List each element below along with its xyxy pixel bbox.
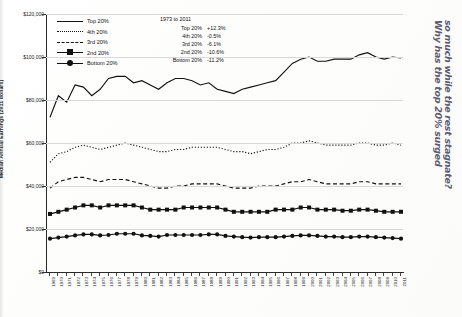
data-point-marker — [290, 208, 294, 212]
data-point-marker — [190, 206, 194, 210]
x-tick-label: 1976 — [109, 277, 114, 287]
x-tick-label: 1989 — [218, 277, 223, 287]
data-point-marker — [257, 235, 261, 239]
data-point-marker — [131, 232, 135, 236]
x-tick-mark — [57, 273, 58, 276]
x-tick-label: 1969 — [51, 277, 56, 287]
data-point-marker — [257, 210, 261, 214]
data-point-marker — [90, 232, 94, 236]
x-tick-mark — [133, 273, 134, 276]
data-point-marker — [207, 206, 211, 210]
data-point-marker — [48, 212, 52, 216]
data-point-marker — [123, 232, 127, 236]
x-tick-mark — [74, 273, 75, 276]
x-tick-mark — [199, 273, 200, 276]
x-tick-mark — [367, 273, 368, 276]
x-tick-label: 1971 — [67, 277, 72, 287]
x-tick-label: 2007 — [368, 277, 373, 287]
data-point-marker — [391, 236, 395, 240]
data-point-marker — [340, 235, 344, 239]
data-point-marker — [73, 206, 77, 210]
x-tick-label: 1973 — [84, 277, 89, 287]
x-tick-mark — [233, 273, 234, 276]
data-point-marker — [140, 206, 144, 210]
gridline — [46, 57, 403, 58]
data-point-marker — [349, 235, 353, 239]
data-point-marker — [307, 206, 311, 210]
data-point-marker — [382, 236, 386, 240]
annotation-change-value: +12.3% — [207, 25, 237, 31]
x-tick-mark — [291, 273, 292, 276]
annotation-series-name: Top 20% — [148, 25, 207, 31]
x-tick-label: 1993 — [251, 277, 256, 287]
handwritten-line-2: so much while the rest stagnate? — [443, 20, 454, 189]
legend-swatch-dotted-icon — [57, 27, 83, 36]
x-tick-label: 2011 — [402, 277, 407, 286]
x-tick-mark — [316, 273, 317, 276]
data-point-marker — [399, 210, 403, 214]
x-tick-mark — [183, 273, 184, 276]
scanned-chart-page: $120,000$100,000$80,000$60,000$40,000$20… — [0, 0, 462, 317]
data-point-marker — [365, 234, 369, 238]
x-tick-label: 1994 — [260, 277, 265, 287]
legend-label: 4th 20% — [87, 29, 108, 35]
annotation-row: Top 20%+12.3% — [148, 24, 240, 32]
x-tick-label: 1998 — [293, 277, 298, 287]
data-point-marker — [391, 210, 395, 214]
y-tick-mark — [42, 229, 46, 230]
x-tick-mark — [91, 273, 92, 276]
x-tick-mark — [208, 273, 209, 276]
x-tick-label: 1986 — [193, 277, 198, 287]
series-line-4th-20 — [50, 141, 401, 163]
handwritten-note: Why has the top 20% surged so much while… — [400, 8, 460, 308]
x-tick-label: 2000 — [310, 277, 315, 287]
data-point-marker — [123, 203, 127, 207]
annotation-row: 3rd 20%-6.1% — [148, 40, 240, 48]
data-point-marker — [207, 232, 211, 236]
y-tick-mark — [42, 186, 46, 187]
x-tick-label: 2008 — [377, 277, 382, 287]
x-tick-label: 1991 — [234, 277, 239, 287]
data-point-marker — [332, 234, 336, 238]
data-point-marker — [165, 208, 169, 212]
data-point-marker — [349, 209, 353, 213]
legend-item[interactable]: 4th 20% — [57, 27, 139, 38]
data-point-marker — [56, 210, 60, 214]
legend-item[interactable]: Top 20% — [57, 16, 139, 27]
x-tick-label: 1995 — [268, 277, 273, 287]
data-point-marker — [282, 208, 286, 212]
annotation-series-name: 3rd 20% — [148, 41, 207, 47]
data-point-marker — [265, 235, 269, 239]
data-point-marker — [106, 233, 110, 237]
data-point-marker — [157, 234, 161, 238]
x-tick-mark — [149, 273, 150, 276]
annotation-rows: Top 20%+12.3%4th 20%-0.5%3rd 20%-6.1%2nd… — [148, 24, 240, 65]
data-point-marker — [399, 237, 403, 241]
x-tick-mark — [308, 273, 309, 276]
y-tick-mark — [42, 100, 46, 101]
x-tick-label: 1982 — [159, 277, 164, 287]
x-tick-label: 2009 — [385, 277, 390, 287]
data-point-marker — [81, 232, 85, 236]
handwritten-line-1: Why has the top 20% surged — [433, 20, 444, 167]
x-tick-mark — [283, 273, 284, 276]
data-point-marker — [132, 203, 136, 207]
data-point-marker — [98, 206, 102, 210]
legend-item[interactable]: Bottom 20% — [57, 58, 139, 69]
data-point-marker — [140, 233, 144, 237]
chart-legend: Top 20%4th 20%3rd 20%2nd 20%Bottom 20% — [57, 16, 139, 69]
x-tick-label: 1990 — [226, 277, 231, 287]
x-tick-mark — [225, 273, 226, 276]
data-point-marker — [73, 233, 77, 237]
x-tick-label: 1997 — [285, 277, 290, 287]
data-point-marker — [299, 206, 303, 210]
x-tick-mark — [375, 273, 376, 276]
x-tick-mark — [216, 273, 217, 276]
x-tick-label: 2006 — [360, 277, 365, 287]
data-point-marker — [173, 208, 177, 212]
x-tick-mark — [82, 273, 83, 276]
gridline — [46, 100, 403, 101]
x-axis-ticks: 1969197019711972197319741975197619771978… — [46, 273, 403, 317]
data-point-marker — [148, 234, 152, 238]
legend-item[interactable]: 3rd 20% — [57, 37, 139, 48]
